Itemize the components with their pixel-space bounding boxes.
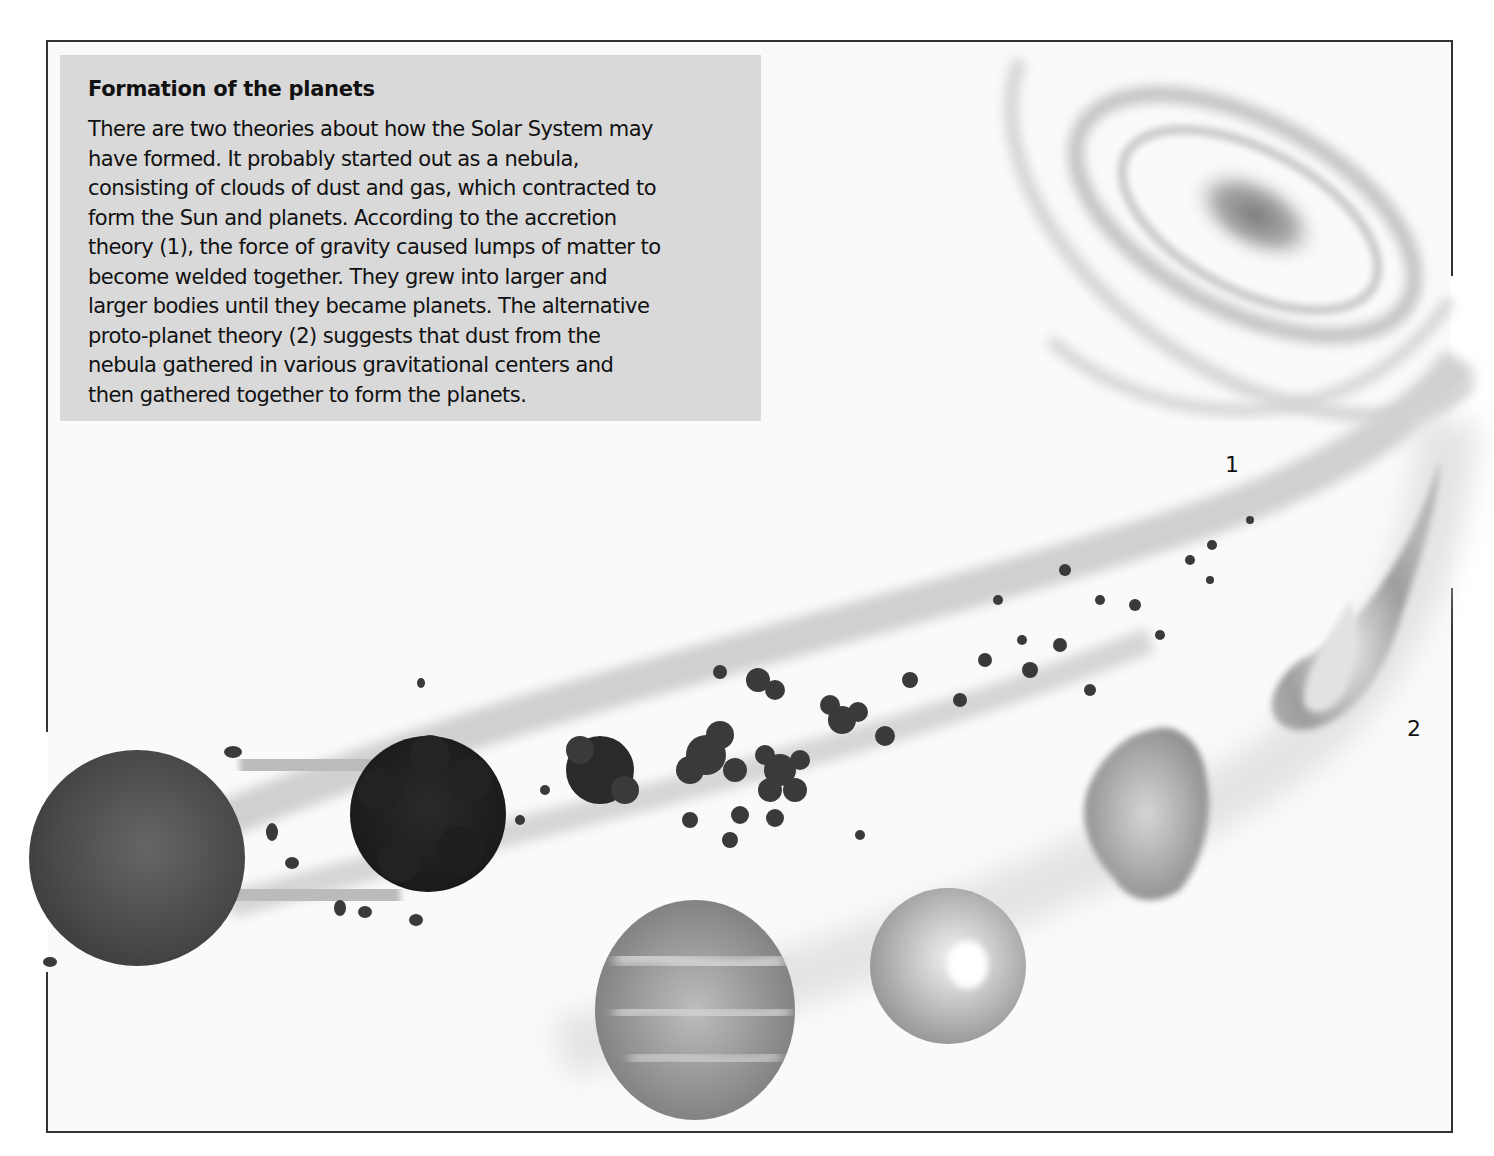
caption-title: Formation of the planets <box>88 77 739 101</box>
proto-planet-sphere <box>870 888 1026 1044</box>
label-accretion-theory: 1 <box>1225 452 1239 477</box>
accreting-lump-large <box>350 735 506 892</box>
caption-box: Formation of the planets There are two t… <box>60 55 761 421</box>
caption-body: There are two theories about how the Sol… <box>88 115 739 410</box>
banded-gas-giant <box>595 900 795 1120</box>
finished-planet-left <box>29 750 245 966</box>
label-proto-planet-theory: 2 <box>1407 716 1421 741</box>
